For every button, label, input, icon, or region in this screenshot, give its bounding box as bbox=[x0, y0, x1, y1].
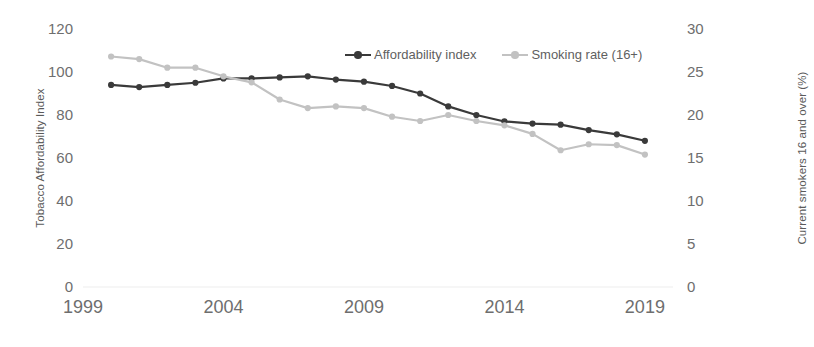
data-point-marker bbox=[473, 118, 479, 124]
y-axis-right-tick-label: 5 bbox=[687, 235, 733, 252]
legend-label-smoking-rate: Smoking rate (16+) bbox=[530, 47, 642, 62]
series-smoking-rate bbox=[108, 53, 648, 157]
x-axis-tick-label: 2009 bbox=[319, 297, 409, 318]
y-axis-left-tick-label: 80 bbox=[27, 106, 73, 123]
data-point-marker bbox=[108, 82, 114, 88]
data-point-marker bbox=[164, 65, 170, 71]
data-point-marker bbox=[389, 114, 395, 120]
series-affordability-index bbox=[108, 73, 648, 144]
data-point-marker bbox=[614, 142, 620, 148]
data-point-marker bbox=[389, 83, 395, 89]
data-point-marker bbox=[586, 141, 592, 147]
y-axis-left-tick-label: 100 bbox=[27, 63, 73, 80]
y-axis-right-tick-label: 20 bbox=[687, 106, 733, 123]
y-axis-right-tick-label: 30 bbox=[687, 20, 733, 37]
y-axis-right-title: Current smokers 16 and over (%) bbox=[796, 28, 808, 288]
data-point-marker bbox=[277, 96, 283, 102]
y-axis-right-tick-label: 0 bbox=[687, 278, 733, 295]
plot-svg bbox=[83, 29, 673, 287]
series-line bbox=[111, 76, 645, 141]
y-axis-right-tick-label: 15 bbox=[687, 149, 733, 166]
data-point-marker bbox=[558, 147, 564, 153]
data-point-marker bbox=[473, 112, 479, 118]
legend-item-affordability-index[interactable]: Affordability index bbox=[345, 47, 476, 62]
x-axis-tick-label: 2019 bbox=[600, 297, 690, 318]
data-point-marker bbox=[501, 122, 507, 128]
y-axis-left-tick-label: 0 bbox=[27, 278, 73, 295]
data-point-marker bbox=[417, 118, 423, 124]
data-point-marker bbox=[614, 131, 620, 137]
data-point-marker bbox=[558, 122, 564, 128]
tobacco-affordability-chart: Tobacco Affordability Index Current smok… bbox=[0, 0, 814, 347]
data-point-marker bbox=[586, 127, 592, 133]
data-point-marker bbox=[529, 131, 535, 137]
data-point-marker bbox=[529, 121, 535, 127]
y-axis-left-tick-label: 120 bbox=[27, 20, 73, 37]
data-point-marker bbox=[305, 73, 311, 79]
data-point-marker bbox=[136, 84, 142, 90]
data-point-marker bbox=[192, 80, 198, 86]
data-point-marker bbox=[192, 65, 198, 71]
data-point-marker bbox=[108, 53, 114, 59]
y-axis-left-tick-label: 20 bbox=[27, 235, 73, 252]
legend-marker-smoking-rate bbox=[502, 50, 528, 60]
y-axis-right-tick-label: 10 bbox=[687, 192, 733, 209]
y-axis-left-tick-label: 40 bbox=[27, 192, 73, 209]
data-point-marker bbox=[445, 112, 451, 118]
data-point-marker bbox=[333, 76, 339, 82]
legend-marker-affordability-index bbox=[345, 50, 371, 60]
x-axis-tick-label: 2014 bbox=[459, 297, 549, 318]
data-point-marker bbox=[642, 138, 648, 144]
x-axis-tick-label: 1999 bbox=[38, 297, 128, 318]
data-point-marker bbox=[164, 82, 170, 88]
data-point-marker bbox=[136, 56, 142, 62]
x-axis-tick-label: 2004 bbox=[178, 297, 268, 318]
data-point-marker bbox=[305, 105, 311, 111]
data-point-marker bbox=[220, 73, 226, 79]
legend-label-affordability-index: Affordability index bbox=[373, 47, 476, 62]
data-point-marker bbox=[333, 103, 339, 109]
data-point-marker bbox=[277, 74, 283, 80]
chart-legend: Affordability index Smoking rate (16+) bbox=[345, 47, 642, 62]
y-axis-left-tick-label: 60 bbox=[27, 149, 73, 166]
legend-item-smoking-rate[interactable]: Smoking rate (16+) bbox=[502, 47, 642, 62]
y-axis-right-tick-label: 25 bbox=[687, 63, 733, 80]
data-point-marker bbox=[248, 79, 254, 85]
plot-area bbox=[83, 29, 673, 287]
data-point-marker bbox=[417, 90, 423, 96]
series-line bbox=[111, 57, 645, 155]
data-point-marker bbox=[361, 79, 367, 85]
data-point-marker bbox=[445, 103, 451, 109]
data-point-marker bbox=[642, 151, 648, 157]
data-point-marker bbox=[361, 105, 367, 111]
